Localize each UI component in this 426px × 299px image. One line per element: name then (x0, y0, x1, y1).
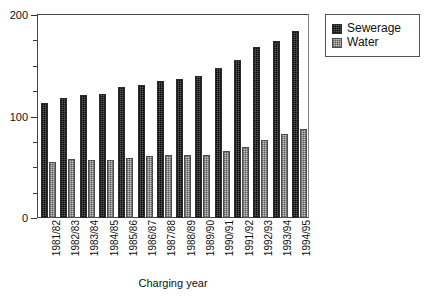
bar-sewerage (157, 81, 164, 218)
bar-sewerage (138, 85, 145, 218)
bar-group (60, 15, 75, 218)
bar-sewerage (118, 87, 125, 218)
bar-group (138, 15, 153, 218)
x-axis-label: 1986/87 (148, 220, 158, 256)
x-axis-label: 1992/93 (264, 220, 274, 256)
x-axis-label: 1982/83 (71, 220, 81, 256)
bar-water (300, 129, 307, 218)
bar-group (157, 15, 172, 218)
sewerage-swatch-icon (332, 24, 342, 34)
x-axis-label: 1994/95 (302, 220, 312, 256)
bar-sewerage (215, 68, 222, 218)
bar-sewerage (292, 31, 299, 218)
legend-label-sewerage: Sewerage (347, 22, 401, 35)
bar-group (80, 15, 95, 218)
x-axis-label: 1988/89 (187, 220, 197, 256)
legend-item-water: Water (332, 36, 414, 49)
bar-group (215, 15, 230, 218)
bar-sewerage (273, 41, 280, 218)
bar-group (253, 15, 268, 218)
x-axis-label: 1985/86 (129, 220, 139, 256)
bar-sewerage (234, 60, 241, 218)
legend: Sewerage Water (325, 14, 420, 57)
bar-water (107, 160, 114, 218)
y-axis-label: 0 (22, 213, 28, 224)
bar-water (281, 134, 288, 218)
bar-water (165, 155, 172, 218)
y-axis-label: 200 (10, 10, 28, 21)
x-axis-title: Charging year (37, 277, 309, 289)
legend-label-water: Water (347, 36, 379, 49)
bar-water (203, 155, 210, 218)
x-axis-label: 1989/90 (206, 220, 216, 256)
bar-water (242, 147, 249, 218)
x-axis-label: 1984/85 (110, 220, 120, 256)
bar-water (223, 151, 230, 218)
x-axis-label: 1987/88 (167, 220, 177, 256)
bar-sewerage (253, 47, 260, 218)
bar-sewerage (176, 79, 183, 218)
x-axis: 1981/821982/831983/841984/851985/861986/… (38, 220, 308, 280)
bar-water (146, 156, 153, 218)
y-axis-label: 100 (10, 111, 28, 122)
y-tick-major (31, 218, 37, 219)
bar-water (49, 162, 56, 218)
bar-water (88, 160, 95, 218)
legend-item-sewerage: Sewerage (332, 22, 414, 35)
bar-water (261, 140, 268, 218)
bar-water (126, 158, 133, 218)
bar-series-container (38, 15, 308, 218)
bar-sewerage (41, 103, 48, 218)
x-axis-label: 1983/84 (90, 220, 100, 256)
bar-group (118, 15, 133, 218)
bar-group (99, 15, 114, 218)
bar-sewerage (80, 95, 87, 218)
x-axis-label: 1990/91 (225, 220, 235, 256)
x-axis-label: 1991/92 (245, 220, 255, 256)
bar-group (176, 15, 191, 218)
bar-group (273, 15, 288, 218)
x-axis-label: 1981/82 (52, 220, 62, 256)
x-axis-label: 1993/94 (283, 220, 293, 256)
bar-group (195, 15, 210, 218)
bar-sewerage (195, 76, 202, 218)
y-axis: 0100200 (0, 0, 37, 219)
bar-group (292, 15, 307, 218)
bar-water (68, 159, 75, 218)
bar-group (41, 15, 56, 218)
water-swatch-icon (332, 38, 342, 48)
bar-sewerage (60, 98, 67, 218)
bar-sewerage (99, 94, 106, 218)
bar-chart: 0100200 1981/821982/831983/841984/851985… (0, 0, 426, 299)
bar-group (234, 15, 249, 218)
bar-water (184, 155, 191, 218)
